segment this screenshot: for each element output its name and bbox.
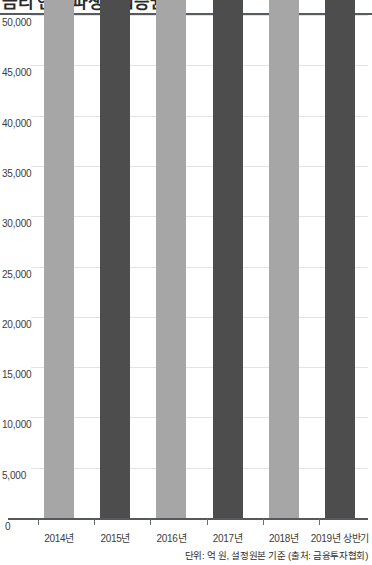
y-axis-tick-label: 15,000 bbox=[2, 369, 31, 380]
bar bbox=[325, 0, 355, 518]
y-axis-tick-label: 45,000 bbox=[2, 67, 31, 78]
x-axis-tick bbox=[207, 519, 208, 525]
y-axis-tick-label: 25,000 bbox=[2, 269, 31, 280]
chart-title-text: 금리 연계 파생결합증권 bbox=[2, 0, 165, 13]
y-axis-zero-label: 0 bbox=[5, 521, 11, 532]
y-axis-tick-label: 40,000 bbox=[2, 118, 31, 129]
y-axis-tick-label: 50,000 bbox=[2, 17, 31, 28]
bar bbox=[156, 0, 186, 518]
bar bbox=[213, 0, 243, 518]
chart-footnote: 단위: 억 원, 설정원본 기준 (출처: 금융투자협회) bbox=[185, 548, 368, 562]
x-axis-tick bbox=[263, 519, 264, 525]
x-axis-category-label: 2019년 상반기 bbox=[300, 530, 372, 545]
y-axis-tick-label: 20,000 bbox=[2, 319, 31, 330]
x-axis-tick bbox=[38, 519, 39, 525]
bar bbox=[269, 0, 299, 518]
x-axis-tick bbox=[319, 519, 320, 525]
bar bbox=[100, 0, 130, 518]
y-axis-tick-label: 10,000 bbox=[2, 419, 31, 430]
x-axis-tick bbox=[150, 519, 151, 525]
y-axis-tick-label: 35,000 bbox=[2, 168, 31, 179]
y-axis-tick-label: 5,000 bbox=[2, 470, 26, 481]
x-axis-line bbox=[8, 518, 368, 520]
y-axis-tick-label: 30,000 bbox=[2, 218, 31, 229]
bars-layer: 74,880115,122198,475284,953378,496445,60… bbox=[31, 15, 368, 518]
bar-chart: 금리 연계 파생결합증권 5,00010,00015,00020,00025,0… bbox=[0, 0, 372, 565]
x-axis-tick bbox=[94, 519, 95, 525]
bar bbox=[44, 0, 74, 518]
